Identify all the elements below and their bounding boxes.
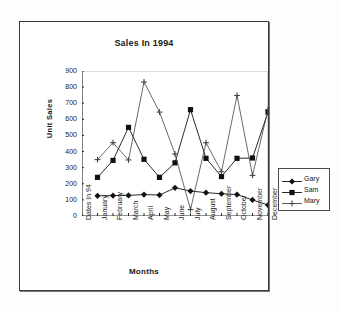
y-tick-label: 400 xyxy=(53,148,77,155)
legend-label: Sam xyxy=(303,186,318,193)
x-axis-title: Months xyxy=(20,267,268,276)
chart-legend: GarySamMary xyxy=(278,168,330,211)
x-tick-label: December xyxy=(271,188,278,220)
y-tick-label: 300 xyxy=(53,164,77,171)
legend-item-gary[interactable]: Gary xyxy=(281,173,326,184)
series-gary xyxy=(94,185,268,208)
y-tick-label: 200 xyxy=(53,180,77,187)
series-plot xyxy=(82,71,268,216)
legend-item-mary[interactable]: Mary xyxy=(281,195,326,206)
y-tick-label: 900 xyxy=(53,67,77,74)
y-tick-label: 700 xyxy=(53,99,77,106)
y-tick-label: 500 xyxy=(53,131,77,138)
legend-item-sam[interactable]: Sam xyxy=(281,184,326,195)
series-sam xyxy=(95,107,268,180)
chart-title: Sales In 1994 xyxy=(20,38,268,48)
diamond-marker-icon xyxy=(281,173,303,184)
series-mary xyxy=(95,79,268,212)
legend-label: Mary xyxy=(303,197,320,204)
y-tick-label: 100 xyxy=(53,196,77,203)
legend-label: Gary xyxy=(303,175,319,182)
scanned-page: Sales In 1994 Unit Sales 900800700600500… xyxy=(0,0,340,312)
plus-marker-icon xyxy=(281,195,303,206)
square-marker-icon xyxy=(281,184,303,195)
chart-frame: Sales In 1994 Unit Sales 900800700600500… xyxy=(19,21,269,291)
y-tick-label: 0 xyxy=(53,212,77,219)
y-tick-label: 800 xyxy=(53,83,77,90)
plot-area xyxy=(82,71,268,216)
y-tick-label: 600 xyxy=(53,115,77,122)
